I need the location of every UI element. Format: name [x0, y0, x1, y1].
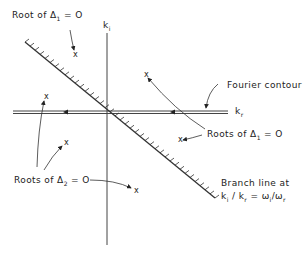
root-marker: x	[44, 92, 49, 101]
root-marker: x	[134, 186, 139, 195]
roots-delta2-label: Roots of Δ2 = O	[14, 175, 90, 187]
annotation-arrows	[37, 30, 218, 188]
root-marker: x	[73, 50, 78, 59]
complex-k-plane-diagram	[0, 0, 306, 256]
root-delta1-label: Root of Δ1 = O	[12, 10, 83, 22]
root-marker: x	[144, 70, 149, 79]
branch-line-label: Branch line at	[221, 178, 289, 188]
root-marker: x	[178, 135, 183, 144]
kr-axis-fourier-contour	[13, 110, 228, 115]
roots-delta1-label: Roots of Δ1 = O	[207, 129, 283, 141]
kr-axis-label: kr	[235, 106, 244, 118]
root-marker: x	[64, 138, 69, 147]
fourier-contour-label: Fourier contour	[227, 80, 302, 90]
branch-line-equation: ki / kr = ωi/ωr	[221, 191, 286, 203]
ki-axis-label: ki	[103, 20, 111, 32]
